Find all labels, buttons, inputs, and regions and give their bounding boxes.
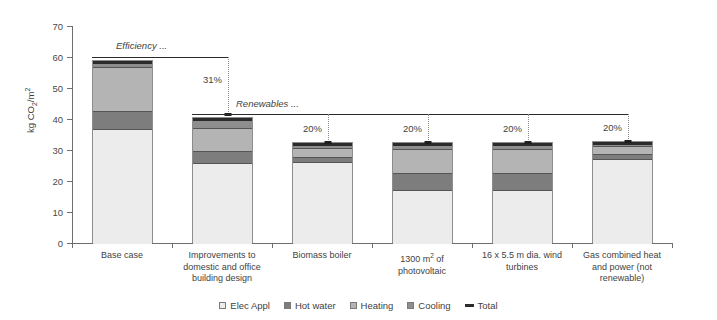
- bar-group[interactable]: [292, 26, 353, 243]
- legend-label: Heating: [361, 300, 394, 311]
- y-axis-line: [72, 26, 73, 243]
- x-category-label: Base case: [72, 250, 172, 262]
- bar-segment-heating: [193, 128, 252, 151]
- pct-callout-3-cap: [325, 141, 332, 144]
- stacked-bar[interactable]: [392, 142, 453, 243]
- pct-callout-6-leader: [628, 114, 629, 140]
- bar-segment-elec-appl: [593, 159, 652, 244]
- y-tick-label: 30: [52, 145, 63, 156]
- x-category-label: 1300 m2 ofphotovoltaic: [372, 250, 472, 277]
- bar-segment-heating: [493, 149, 552, 172]
- x-category-label: 16 x 5.5 m dia. windturbines: [472, 250, 572, 273]
- bar-segment-hot-water: [193, 151, 252, 163]
- bar-segment-elec-appl: [193, 163, 252, 244]
- pct-callout-4-label: 20%: [403, 123, 422, 134]
- x-category-label: Gas combined heatand power (notrenewable…: [572, 250, 672, 285]
- pct-callout-3-label: 20%: [303, 123, 322, 134]
- legend-item[interactable]: Elec Appl: [219, 300, 270, 311]
- category-label-line: photovoltaic: [372, 266, 472, 278]
- bar-segment-hot-water: [93, 111, 152, 130]
- bar-total-cap: [193, 118, 252, 121]
- category-label-line: renewable): [572, 273, 672, 285]
- x-tick-mark: [372, 243, 373, 248]
- category-label-line: Biomass boiler: [272, 250, 372, 262]
- x-category-label: Improvements todomestic and officebuildi…: [172, 250, 272, 285]
- bar-segment-elec-appl: [93, 129, 152, 244]
- bar-group[interactable]: [392, 26, 453, 243]
- efficiency-caption: Efficiency ...: [116, 40, 167, 51]
- pct-callout-5-label: 20%: [503, 123, 522, 134]
- pct-callout-2-label: 31%: [203, 74, 222, 85]
- legend-item[interactable]: Cooling: [407, 300, 450, 311]
- category-label-line: Gas combined heat: [572, 250, 672, 262]
- y-tick-label: 20: [52, 176, 63, 187]
- pct-callout-4-leader: [428, 114, 429, 142]
- bar-group[interactable]: [192, 26, 253, 243]
- bar-segment-heating: [93, 67, 152, 110]
- category-label-line: Improvements to: [172, 250, 272, 262]
- legend-swatch-cooling: [407, 302, 414, 309]
- bar-segment-hot-water: [293, 157, 352, 162]
- category-label-line: building design: [172, 273, 272, 285]
- stacked-bar[interactable]: [92, 60, 153, 243]
- category-label-line: and power (not: [572, 262, 672, 274]
- renewables-rule: [192, 114, 629, 115]
- y-tick-mark: [67, 57, 72, 58]
- stacked-bar[interactable]: [192, 117, 253, 243]
- y-tick-label: 40: [52, 114, 63, 125]
- x-tick-mark: [572, 243, 573, 248]
- y-tick-mark: [67, 150, 72, 151]
- bar-group[interactable]: [92, 26, 153, 243]
- y-tick-label: 0: [58, 238, 63, 249]
- legend-label: Total: [478, 300, 498, 311]
- chart-legend: Elec ApplHot waterHeatingCoolingTotal: [0, 300, 717, 311]
- stacked-bar[interactable]: [292, 142, 353, 243]
- pct-callout-5-cap: [525, 141, 532, 144]
- bar-segment-hot-water: [593, 154, 652, 159]
- x-tick-mark: [472, 243, 473, 248]
- y-tick-mark: [67, 119, 72, 120]
- category-label-line: domestic and office: [172, 262, 272, 274]
- x-tick-mark: [72, 243, 73, 248]
- y-tick-label: 10: [52, 207, 63, 218]
- bar-group[interactable]: [592, 26, 653, 243]
- x-tick-mark: [272, 243, 273, 248]
- bar-segment-heating: [293, 148, 352, 157]
- y-tick-label: 60: [52, 52, 63, 63]
- renewables-caption: Renewables ...: [236, 98, 299, 109]
- bar-total-cap: [593, 142, 652, 145]
- bar-segment-elec-appl: [493, 190, 552, 244]
- plot-area: 010203040506070 Efficiency ...31%Renewab…: [72, 26, 672, 243]
- legend-item[interactable]: Heating: [350, 300, 394, 311]
- y-axis-title: kg CO2/m2: [24, 88, 38, 133]
- efficiency-rule: [92, 57, 229, 58]
- bar-total-cap: [293, 143, 352, 146]
- pct-callout-3-leader: [328, 114, 329, 142]
- legend-item[interactable]: Total: [465, 300, 498, 311]
- legend-label: Hot water: [295, 300, 336, 311]
- legend-item[interactable]: Hot water: [284, 300, 336, 311]
- pct-callout-4-cap: [425, 141, 432, 144]
- bar-segment-hot-water: [493, 173, 552, 190]
- category-label-line: 16 x 5.5 m dia. wind: [472, 250, 572, 262]
- bar-group[interactable]: [492, 26, 553, 243]
- chart-root: kg CO2/m2 010203040506070 Efficiency ...…: [0, 0, 717, 320]
- bar-segment-hot-water: [393, 173, 452, 190]
- legend-swatch-heating: [350, 302, 357, 309]
- x-tick-mark: [672, 243, 673, 248]
- pct-callout-2-leader: [228, 57, 229, 114]
- pct-callout-5-leader: [528, 114, 529, 142]
- category-label-line: turbines: [472, 262, 572, 274]
- y-tick-mark: [67, 26, 72, 27]
- bar-segment-heating: [593, 146, 652, 154]
- legend-swatch-hot-water: [284, 302, 291, 309]
- category-label-line: Base case: [72, 250, 172, 262]
- stacked-bar[interactable]: [492, 142, 553, 243]
- pct-callout-6-label: 20%: [603, 122, 622, 133]
- stacked-bar[interactable]: [592, 141, 653, 243]
- bar-total-cap: [93, 61, 152, 64]
- category-label-line: 1300 m2 of: [372, 250, 472, 266]
- y-tick-mark: [67, 88, 72, 89]
- bar-segment-heating: [393, 149, 452, 172]
- legend-label: Cooling: [418, 300, 450, 311]
